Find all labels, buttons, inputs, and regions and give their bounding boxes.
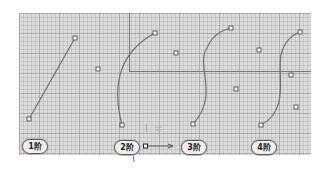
curve-order-4 — [261, 32, 300, 125]
control-point-icon[interactable] — [289, 73, 293, 77]
axis-arrow-icon — [144, 124, 174, 148]
control-point-icon[interactable] — [229, 26, 233, 30]
control-point-icon[interactable] — [191, 122, 195, 126]
label-order-3: 3阶 — [181, 140, 207, 155]
control-point-icon[interactable] — [27, 117, 31, 121]
control-point-icon[interactable] — [120, 123, 124, 127]
control-point-icon[interactable] — [73, 36, 77, 40]
label-order-4: 4阶 — [251, 140, 277, 155]
curve-order-1 — [29, 38, 75, 119]
control-point-icon[interactable] — [96, 67, 100, 71]
control-point-icon[interactable] — [298, 30, 302, 34]
control-point-icon[interactable] — [153, 31, 157, 35]
control-point-icon[interactable] — [259, 123, 263, 127]
curve-order-3 — [193, 28, 231, 124]
control-point-icon[interactable] — [257, 48, 261, 52]
control-point-icon[interactable] — [174, 51, 178, 55]
control-point-icon[interactable] — [234, 87, 238, 91]
curve-order-2 — [118, 33, 155, 125]
label-order-1: 1阶 — [22, 139, 48, 154]
label-order-2: 2阶 — [114, 140, 140, 155]
control-point-icon[interactable] — [294, 105, 298, 109]
